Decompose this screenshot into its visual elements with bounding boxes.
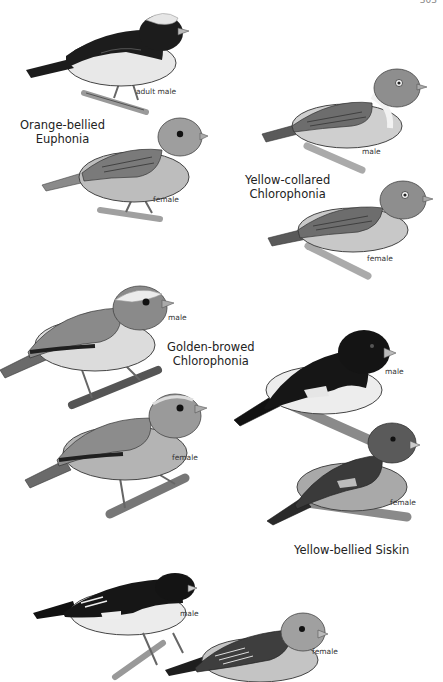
sex-label: female [390, 498, 416, 507]
bird-illustration-yellow-collared-female [268, 180, 433, 280]
sex-label: male [385, 367, 404, 376]
sex-label: male [168, 313, 187, 322]
sex-label: female [172, 453, 198, 462]
bird-illustration-bottom-female [165, 612, 330, 682]
bird-illustration-siskin-female [267, 421, 427, 531]
page-number: 303 [420, 0, 437, 5]
bird-illustration-euphonia-male [26, 8, 196, 116]
sex-label: female [367, 254, 393, 263]
bird-illustration-yellow-collared-male [262, 68, 427, 178]
species-line: Yellow-bellied Siskin [294, 543, 409, 557]
sex-label: male [362, 147, 381, 156]
sex-label: adult male [136, 87, 176, 96]
sex-label: female [153, 195, 179, 204]
sex-label: female [312, 647, 338, 656]
species-name-yellow-bellied-siskin: Yellow-bellied Siskin [294, 543, 409, 557]
bird-illustration-euphonia-female [42, 115, 207, 225]
